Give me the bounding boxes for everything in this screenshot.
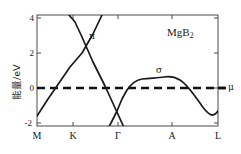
x-tick-label-Gamma: Γ [109, 131, 127, 141]
y-tick-label-minus-2: -2 [18, 119, 32, 128]
sigma-band-curve [105, 77, 218, 134]
y-tick-label-0: 0 [20, 84, 34, 93]
x-tick-label-L: L [209, 131, 227, 141]
material-formula: MgB2 [167, 27, 193, 38]
x-tick-label-A: A [163, 131, 181, 141]
band-structure-figure: 能量/eV 4 2 0 -2 M K Γ A L π σ μ MgB2 [0, 0, 241, 154]
x-tick-label-K: K [64, 131, 82, 141]
mu-label: μ [228, 83, 234, 92]
sigma-band-label: σ [156, 66, 162, 75]
y-tick-label-4: 4 [20, 14, 34, 23]
pi-band-label: π [89, 32, 95, 41]
material-formula-subscript: 2 [190, 31, 194, 40]
x-tick-label-M: M [28, 131, 46, 141]
pi-band-falling-curve [69, 15, 127, 134]
y-tick-label-2: 2 [20, 49, 34, 58]
material-formula-base: MgB [167, 26, 190, 38]
y-axis-title: 能量/eV [12, 64, 22, 100]
